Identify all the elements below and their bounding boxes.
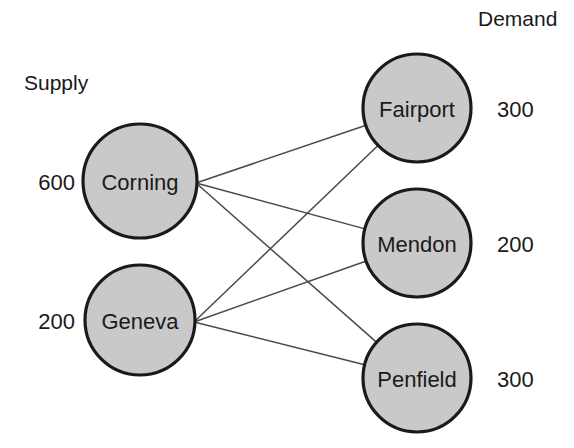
- edge-geneva-to-mendon: [194, 261, 367, 322]
- network-graph: CorningGenevaFairportMendonPenfield 6002…: [0, 0, 574, 448]
- demand-node-label-penfield: Penfield: [377, 367, 457, 392]
- edge-corning-to-fairport: [196, 125, 367, 183]
- supply-node-label-geneva: Geneva: [101, 309, 179, 334]
- demand-value-penfield: 300: [497, 367, 534, 392]
- edge-geneva-to-penfield: [194, 322, 366, 365]
- supply-value-geneva: 200: [38, 309, 75, 334]
- demand-node-label-fairport: Fairport: [379, 97, 455, 122]
- transportation-network-diagram: CorningGenevaFairportMendonPenfield 6002…: [0, 0, 574, 448]
- edge-group: [194, 125, 379, 365]
- supply-node-label-corning: Corning: [101, 170, 178, 195]
- demand-value-mendon: 200: [497, 232, 534, 257]
- demand-value-fairport: 300: [497, 97, 534, 122]
- supply-heading: Supply: [24, 71, 89, 94]
- demand-node-label-mendon: Mendon: [377, 232, 457, 257]
- edge-geneva-to-fairport: [194, 145, 379, 322]
- demand-heading: Demand: [478, 7, 557, 30]
- supply-value-corning: 600: [38, 170, 75, 195]
